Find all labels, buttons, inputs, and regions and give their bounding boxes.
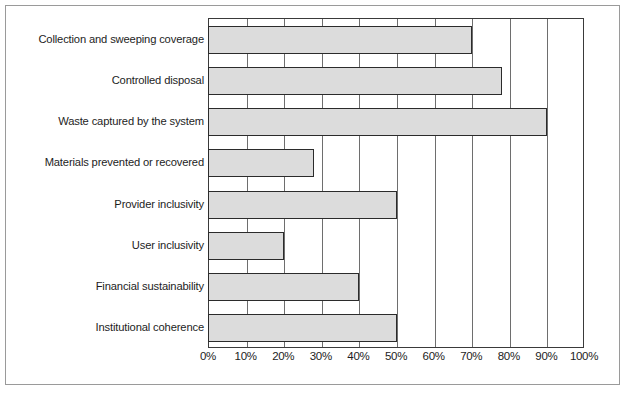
category-label: Controlled disposal (8, 74, 204, 86)
category-axis-labels: Collection and sweeping coverageControll… (8, 18, 204, 348)
x-tick-label: 40% (347, 350, 369, 362)
bar-series (209, 19, 583, 347)
category-label: Provider inclusivity (8, 198, 204, 210)
x-tick-label: 50% (385, 350, 407, 362)
category-label: User inclusivity (8, 239, 204, 251)
bar (208, 149, 314, 177)
bar (208, 108, 547, 136)
x-axis-tick-labels: 0%10%20%30%40%50%60%70%80%90%100% (208, 350, 584, 370)
x-tick-label: 60% (423, 350, 445, 362)
x-tick-label: 10% (235, 350, 257, 362)
x-tick-label: 30% (310, 350, 332, 362)
category-label: Collection and sweeping coverage (8, 33, 204, 45)
bar (208, 191, 397, 219)
bar (208, 314, 397, 342)
x-tick-label: 80% (498, 350, 520, 362)
bar (208, 67, 502, 95)
chart-figure: Collection and sweeping coverageControll… (0, 0, 628, 398)
category-label: Institutional coherence (8, 321, 204, 333)
category-label: Waste captured by the system (8, 115, 204, 127)
category-label: Financial sustainability (8, 280, 204, 292)
plot-area (208, 18, 584, 348)
x-tick-label: 20% (272, 350, 294, 362)
x-tick-label: 100% (570, 350, 598, 362)
x-tick-label: 70% (460, 350, 482, 362)
bar (208, 273, 359, 301)
x-tick-label: 90% (535, 350, 557, 362)
bar (208, 232, 284, 260)
x-tick-label: 0% (200, 350, 216, 362)
bar (208, 26, 472, 54)
category-label: Materials prevented or recovered (8, 156, 204, 168)
